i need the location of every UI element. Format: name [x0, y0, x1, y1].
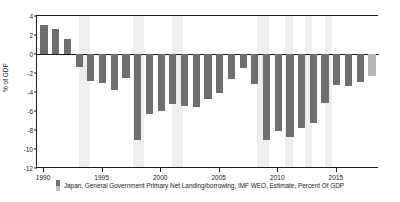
bar-2016: [345, 54, 352, 86]
bar-2018: [368, 54, 375, 76]
x-tick-mark: [43, 168, 44, 172]
bar-2000: [158, 54, 165, 111]
x-tick-mark: [277, 168, 278, 172]
y-tick-label: 2: [3, 32, 37, 39]
bar-2006: [228, 54, 235, 79]
bar-1990: [40, 25, 47, 54]
y-tick-label: -8: [3, 127, 37, 134]
bar-1993: [76, 54, 83, 67]
x-tick-mark: [219, 168, 220, 172]
y-tick-mark: [34, 92, 37, 93]
x-tick-mark: [102, 168, 103, 172]
plot-area: 420-2-4-6-8-10-12: [36, 15, 378, 167]
bar-2008: [251, 54, 258, 84]
x-tick-mark: [336, 168, 337, 172]
bar-1996: [111, 54, 118, 90]
bar-2015: [333, 54, 340, 85]
legend-label: Japan, General Government Primary Net La…: [64, 182, 344, 189]
y-tick-mark: [34, 16, 37, 17]
bar-1997: [122, 54, 129, 78]
bar-2009: [263, 54, 270, 140]
bar-2012: [298, 54, 305, 128]
recession-band: [79, 16, 90, 168]
bar-2002: [181, 54, 188, 106]
y-tick-mark: [34, 111, 37, 112]
y-tick-label: -4: [3, 89, 37, 96]
y-tick-label: -2: [3, 70, 37, 77]
bar-2013: [310, 54, 317, 123]
bar-2003: [193, 54, 200, 107]
y-tick-label: -10: [3, 146, 37, 153]
bar-2005: [216, 54, 223, 93]
legend-swatch-icon: [56, 180, 60, 191]
y-tick-mark: [34, 149, 37, 150]
bar-1994: [87, 54, 94, 81]
y-tick-label: 0: [3, 51, 37, 58]
bar-1992: [64, 39, 71, 54]
bar-2017: [357, 54, 364, 82]
chart-container: % of GDP 420-2-4-6-8-10-12 1990199520002…: [0, 0, 400, 202]
y-tick-label: -12: [3, 165, 37, 172]
y-tick-mark: [34, 73, 37, 74]
y-tick-label: 4: [3, 13, 37, 20]
bar-1998: [134, 54, 141, 140]
y-tick-label: -6: [3, 108, 37, 115]
bar-1999: [146, 54, 153, 114]
bar-2007: [240, 54, 247, 68]
x-tick-mark: [160, 168, 161, 172]
bar-1995: [99, 54, 106, 83]
bar-2004: [204, 54, 211, 99]
bar-2010: [275, 54, 282, 131]
y-tick-mark: [34, 35, 37, 36]
bar-2011: [286, 54, 293, 137]
y-tick-mark: [34, 54, 37, 55]
bar-1991: [52, 29, 59, 54]
y-tick-mark: [34, 130, 37, 131]
bar-2014: [321, 54, 328, 103]
chart-legend: Japan, General Government Primary Net La…: [0, 180, 400, 191]
bar-2001: [169, 54, 176, 104]
